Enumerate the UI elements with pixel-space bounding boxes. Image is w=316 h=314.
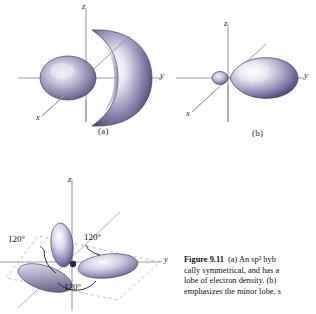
axis-label-y-a: y [160, 70, 164, 80]
nucleus-c [70, 261, 76, 267]
axis-x-front-b [192, 88, 218, 112]
caption-line-2: cally symmetrical, and has a [184, 266, 316, 277]
panel-a-diagram [0, 0, 170, 145]
panel-a: z y x (a) [0, 0, 170, 145]
panel-label-b: (b) [252, 128, 263, 138]
figure-caption: Figure 9.11 (a) An sp² hyb cally symmetr… [184, 255, 316, 313]
caption-text-1: (a) An sp² hyb [228, 255, 276, 264]
angle-label-c-1: 120° [8, 234, 25, 244]
panel-label-a: (a) [98, 126, 109, 136]
minor-lobe-b [212, 72, 228, 85]
figure-container: z y x (a) [0, 0, 316, 314]
panel-c: z y 120° 120° 120° [0, 150, 186, 314]
minor-lobe-a [40, 56, 96, 100]
axis-label-z-b: z [224, 18, 227, 28]
axis-label-x-a: x [36, 112, 40, 122]
caption-line-1: Figure 9.11 (a) An sp² hyb [184, 255, 316, 266]
hybrid-lobe-c-1 [49, 222, 75, 268]
caption-line-4: emphasizes the minor lobe, s [184, 287, 316, 298]
axis-label-y-c: y [164, 254, 168, 264]
angle-arc-c-right [88, 249, 100, 255]
axis-label-y-b: y [304, 70, 308, 80]
axis-label-x-b: x [186, 108, 190, 118]
angle-label-c-3: 120° [64, 282, 81, 292]
major-lobe-b [230, 58, 298, 99]
axis-label-z-c: z [68, 174, 71, 184]
caption-line-3: lobe of electron density. (b) [184, 276, 316, 287]
minor-lobe-highlight-a [50, 63, 74, 79]
angle-label-c-2: 120° [84, 232, 101, 242]
panel-b: z y x (b) [170, 0, 316, 145]
panel-b-diagram [170, 0, 316, 145]
axis-label-z-a: z [82, 1, 85, 11]
angle-leader-c-left [40, 246, 44, 250]
figure-number: Figure 9.11 [184, 255, 224, 264]
